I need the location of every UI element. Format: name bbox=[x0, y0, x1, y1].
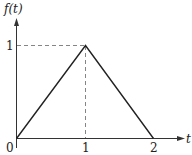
x-axis-label: t bbox=[186, 132, 191, 146]
x-axis-arrow-icon bbox=[177, 136, 185, 141]
y-axis-arrow-icon bbox=[14, 18, 19, 26]
x-tick-1-label: 1 bbox=[82, 141, 90, 155]
series-f-t bbox=[17, 46, 154, 139]
y-axis-label: f(t) bbox=[3, 2, 23, 16]
y-tick-1-label: 1 bbox=[6, 39, 14, 53]
x-tick-2-label: 2 bbox=[150, 141, 158, 155]
origin-label: 0 bbox=[6, 141, 14, 155]
triangle-pulse-chart: f(t) 1 0 1 2 t bbox=[0, 0, 192, 155]
